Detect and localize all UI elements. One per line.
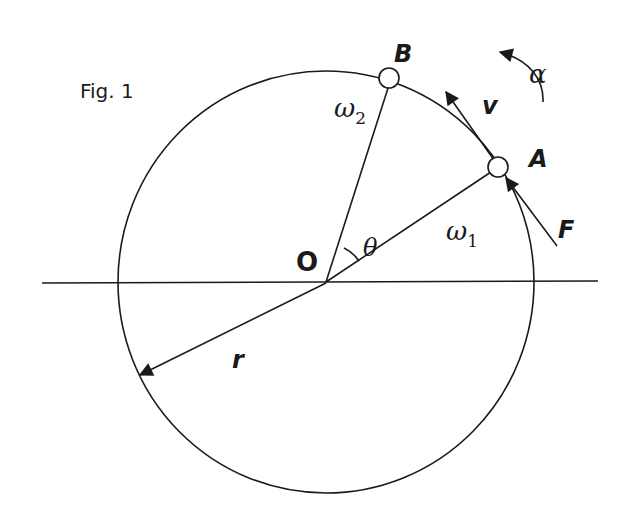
figure-title: Fig. 1 <box>80 79 134 103</box>
label-v: v <box>482 92 499 120</box>
omega2-symbol: ω <box>334 93 355 123</box>
label-a: A <box>527 145 548 173</box>
label-r: r <box>232 346 246 374</box>
omega1-subscript: 1 <box>467 231 478 251</box>
omega2-subscript: 2 <box>355 108 366 128</box>
label-f: F <box>558 216 575 244</box>
particle-b <box>379 68 399 88</box>
label-b: B <box>394 40 412 68</box>
theta-arc <box>344 248 359 261</box>
figure-1-diagram: Fig. 1 B A v F α O θ ω1 ω2 r <box>0 0 623 522</box>
label-o: O <box>296 247 318 277</box>
horizontal-axis <box>42 281 598 283</box>
force-arrow <box>506 178 557 246</box>
omega1-symbol: ω <box>446 216 467 246</box>
label-theta: θ <box>363 234 378 262</box>
label-omega2: ω2 <box>334 93 366 128</box>
label-alpha: α <box>529 59 547 89</box>
particle-a <box>488 157 508 177</box>
label-omega1: ω1 <box>446 216 478 251</box>
